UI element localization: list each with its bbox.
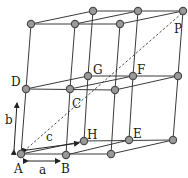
node-C (66, 85, 73, 92)
node-F (129, 72, 136, 79)
lattice-nodes (17, 7, 186, 158)
label-P: P (174, 22, 182, 36)
label-B: B (61, 162, 70, 176)
top-layer-edges (31, 11, 183, 24)
label-D: D (11, 75, 21, 89)
lattice-diagram: A B C D E F G H P a b c (0, 0, 188, 178)
vector-b-arrow (14, 103, 17, 150)
label-E: E (133, 127, 142, 141)
node-P (179, 7, 186, 14)
middle-layer-edges (26, 76, 178, 90)
node-D (22, 85, 29, 92)
label-c: c (46, 130, 53, 144)
label-H: H (87, 128, 97, 142)
label-a: a (39, 163, 46, 177)
label-G: G (93, 63, 103, 77)
label-b: b (5, 113, 13, 127)
node-A (17, 150, 24, 157)
label-C: C (72, 97, 81, 111)
label-A: A (13, 162, 23, 176)
node-B (62, 151, 69, 158)
node-G (84, 72, 91, 79)
node-E (125, 136, 132, 143)
vector-c-arrow (27, 143, 79, 150)
label-F: F (137, 63, 145, 77)
